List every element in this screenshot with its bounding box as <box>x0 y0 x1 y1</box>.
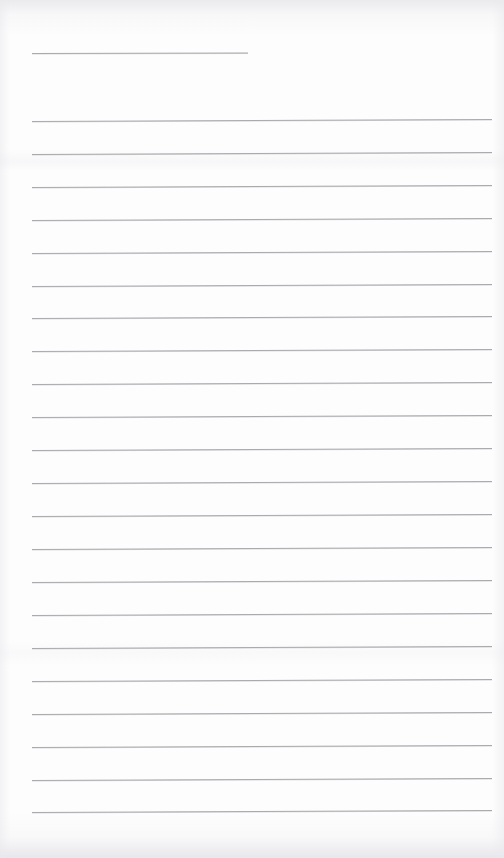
title-rule-line <box>32 52 248 54</box>
ruled-line <box>32 810 492 813</box>
ruled-line <box>32 580 492 583</box>
ruled-line <box>32 119 492 122</box>
ruled-line <box>32 679 492 682</box>
ruled-line <box>32 778 492 781</box>
document-page <box>0 0 504 858</box>
ruled-line <box>32 712 492 715</box>
ruled-line <box>32 218 492 221</box>
ruled-line <box>32 613 492 616</box>
ruled-line <box>32 152 492 155</box>
ruled-line <box>32 547 492 550</box>
writing-area[interactable] <box>0 0 504 858</box>
ruled-line <box>32 284 492 287</box>
ruled-line <box>32 481 492 484</box>
ruled-line <box>32 415 492 418</box>
ruled-line <box>32 514 492 517</box>
ruled-line <box>32 251 492 254</box>
ruled-line <box>32 382 492 385</box>
ruled-line <box>32 185 492 188</box>
ruled-line <box>32 349 492 352</box>
ruled-line <box>32 448 492 451</box>
ruled-line <box>32 745 492 748</box>
ruled-line <box>32 316 492 319</box>
ruled-line <box>32 646 492 649</box>
